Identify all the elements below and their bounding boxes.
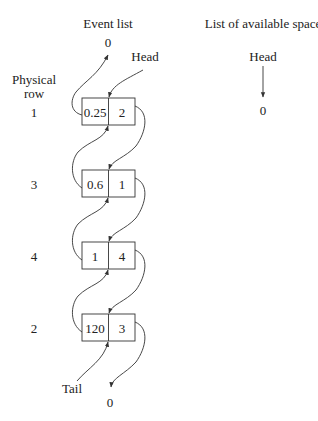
physical-row-number: 1 bbox=[31, 106, 38, 119]
node-value: 120 bbox=[82, 322, 108, 335]
node-pointer: 4 bbox=[109, 250, 135, 263]
available-space-null: 0 bbox=[260, 104, 267, 117]
event-list-top-null: 0 bbox=[105, 36, 112, 49]
tail-arrow bbox=[77, 342, 108, 381]
node-value: 0.6 bbox=[82, 178, 108, 191]
node-value: 0.25 bbox=[82, 106, 108, 119]
physical-row-number: 2 bbox=[31, 322, 38, 335]
physical-row-label-line2: row bbox=[24, 87, 44, 100]
event-list-bottom-null: 0 bbox=[107, 396, 114, 409]
physical-row-number: 3 bbox=[31, 178, 38, 191]
physical-row-number: 4 bbox=[31, 250, 38, 263]
node-value: 1 bbox=[82, 250, 108, 263]
node-pointer: 1 bbox=[109, 178, 135, 191]
head-arrow bbox=[109, 70, 143, 97]
node-pointer: 2 bbox=[109, 106, 135, 119]
event-list-tail-label: Tail bbox=[62, 382, 82, 395]
event-list-title: Event list bbox=[83, 17, 132, 30]
available-space-head-label: Head bbox=[249, 50, 276, 63]
event-list-head-label: Head bbox=[131, 50, 158, 63]
available-space-title: List of available space bbox=[205, 17, 318, 30]
physical-row-label-line1: Physical bbox=[12, 73, 56, 86]
node-pointer: 3 bbox=[109, 322, 135, 335]
